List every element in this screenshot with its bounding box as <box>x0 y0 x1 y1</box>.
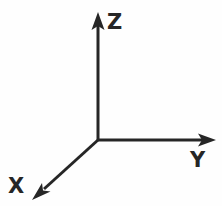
coordinate-axes-figure: Z Y X <box>0 0 222 206</box>
y-axis <box>98 134 216 147</box>
x-axis <box>32 140 98 200</box>
y-axis-label: Y <box>190 150 205 171</box>
z-axis <box>92 12 105 140</box>
z-axis-label: Z <box>107 12 122 33</box>
x-axis-label: X <box>8 176 24 197</box>
x-axis-line <box>44 140 98 189</box>
